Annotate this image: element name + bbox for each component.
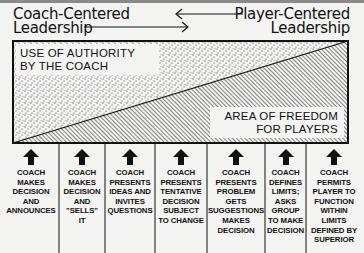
behavior-column-4: COACH PRESENTS TENTATIVE DECISION SUBJEC… [155,144,207,253]
column-text-line: DECISION [59,187,105,197]
column-text-line: TO CHANGE [155,216,207,226]
column-text-line: MAKES [207,216,265,226]
column-text-line: ASKS [265,197,306,207]
column-text-line: LIMITS [306,216,362,226]
behavior-column-1: COACH MAKES DECISION AND ANNOUNCES [3,144,59,253]
column-text-line: IT [59,216,105,226]
column-text-line: COACH [207,168,265,178]
column-text-line: SUPERIOR [306,235,362,245]
column-text-line: TENTATIVE [155,187,207,197]
authority-label-line: BY THE COACH [20,60,155,73]
column-text-line: PROBLEM [207,187,265,197]
column-text-line: PRESENTS [207,178,265,188]
column-text-line: COACH [155,168,207,178]
column-text-line: DECISION [155,197,207,207]
column-text-line: AND [59,197,105,207]
up-arrow-icon [325,148,343,166]
column-text-line: PERMITS [306,178,362,188]
column-text-line: SUBJECT [155,206,207,216]
up-arrow-icon [73,148,91,166]
column-text-line: INVITES [105,197,155,207]
column-text-line: FUNCTION [306,197,362,207]
column-text-line: MAKES [59,178,105,188]
freedom-label: AREA OF FREEDOM FOR PLAYERS [210,107,344,138]
up-arrow-icon [121,148,139,166]
column-text-line: DECISION [3,187,59,197]
column-text-line: COACH [59,168,105,178]
column-text-line: ANNOUNCES [3,206,59,216]
column-text-line: PRESENTS [155,178,207,188]
up-arrow-icon [227,148,245,166]
column-text-line: PLAYER TO [306,187,362,197]
up-arrow-icon [22,148,40,166]
column-text-line: DECISION [207,226,265,236]
behavior-column-3: COACH PRESENTS IDEAS AND INVITES QUESTIO… [105,144,155,253]
behavior-column-5: COACH PRESENTS PROBLEM GETS SUGGESTIONS … [207,144,265,253]
column-text-line: DEFINED BY [306,226,362,236]
up-arrow-icon [277,148,295,166]
column-text-line: COACH [306,168,362,178]
freedom-label-line: FOR PLAYERS [214,123,338,136]
column-text-line: MAKES [3,178,59,188]
behavior-column-7: COACH PERMITS PLAYER TO FUNCTION WITHIN … [306,144,362,253]
column-text-line: GETS [207,197,265,207]
column-text-line: QUESTIONS [105,206,155,216]
column-text-line: "SELLS" [59,206,105,216]
column-text-line: PRESENTS [105,178,155,188]
freedom-label-line: AREA OF FREEDOM [214,110,338,123]
behavior-column-6: COACH DEFINES LIMITS; ASKS GROUP TO MAKE… [265,144,306,253]
authority-label-line: USE OF AUTHORITY [20,47,155,60]
double-arrow-icon [84,9,243,32]
up-arrow-icon [172,148,190,166]
column-text-line: LIMITS; [265,187,306,197]
column-text-line: COACH [105,168,155,178]
column-text-line: COACH [265,168,306,178]
column-text-line: DECISION [265,226,306,236]
column-text-line: SUGGESTIONS [207,206,265,216]
behavior-column-2: COACH MAKES DECISION AND "SELLS" IT [59,144,105,253]
column-text-line: COACH [3,168,59,178]
column-text-line: WITHIN [306,206,362,216]
column-text-line: AND [3,197,59,207]
column-text-line: TO MAKE [265,216,306,226]
authority-label: USE OF AUTHORITY BY THE COACH [16,44,159,75]
column-text-line: DEFINES [265,178,306,188]
column-text-line: IDEAS AND [105,187,155,197]
column-text-line: GROUP [265,206,306,216]
